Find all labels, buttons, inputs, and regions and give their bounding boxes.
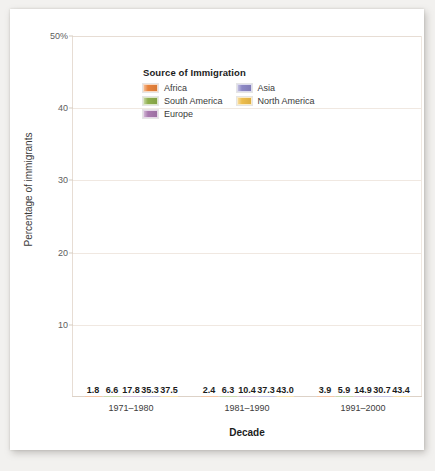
bar-value-label: 6.6: [106, 385, 119, 395]
x-axis-tick-label: 1971–1980: [108, 403, 153, 413]
y-axis-tick-label: 30: [58, 175, 68, 185]
bar-wrapper: 14.9: [355, 396, 372, 397]
bar-north-america[interactable]: 43.0: [277, 396, 294, 397]
legend-item-label: South America: [164, 96, 223, 106]
bar-value-label: 3.9: [319, 385, 332, 395]
legend-item-africa[interactable]: Africa: [143, 83, 223, 93]
bar-value-label: 37.5: [160, 385, 178, 395]
bar-wrapper: 37.5: [161, 396, 178, 397]
legend-item-europe[interactable]: Europe: [143, 109, 223, 119]
legend-item-label: Asia: [258, 83, 276, 93]
bar-asia[interactable]: 35.3: [142, 396, 159, 397]
legend-columns: AfricaSouth AmericaEurope AsiaNorth Amer…: [143, 83, 315, 119]
bar-africa[interactable]: 1.8: [85, 396, 102, 397]
bar-wrapper: 43.0: [277, 396, 294, 397]
bar-south-america[interactable]: 6.3: [220, 396, 237, 397]
y-axis-title-text: Percentage of immigrants: [24, 133, 35, 247]
bar-wrapper: 5.9: [336, 396, 353, 397]
legend-swatch-icon: [237, 84, 252, 92]
bar-europe[interactable]: 14.9: [355, 396, 372, 397]
bar-wrapper: 17.8: [123, 396, 140, 397]
bar-wrapper: 35.3: [142, 396, 159, 397]
bar-value-label: 2.4: [203, 385, 216, 395]
bar-value-label: 30.7: [373, 385, 391, 395]
bar-south-america[interactable]: 6.6: [104, 396, 121, 397]
bar-value-label: 43.4: [392, 385, 410, 395]
legend-swatch-icon: [237, 97, 252, 105]
x-axis-tick-label: 1981–1990: [224, 403, 269, 413]
bar-north-america[interactable]: 37.5: [161, 396, 178, 397]
legend-title: Source of Immigration: [143, 67, 315, 78]
bar-north-america[interactable]: 43.4: [393, 396, 410, 397]
legend-column-left: AfricaSouth AmericaEurope: [143, 83, 223, 119]
bar-value-label: 37.3: [257, 385, 275, 395]
bar-europe[interactable]: 17.8: [123, 396, 140, 397]
plot-area: 1020304050% 1.86.617.835.337.51971–19802…: [72, 36, 422, 397]
x-axis-title: Decade: [72, 427, 422, 438]
bar-wrapper: 3.9: [317, 396, 334, 397]
y-axis-tick-label: 50%: [50, 31, 68, 41]
legend-swatch-icon: [143, 84, 158, 92]
legend-item-north-america[interactable]: North America: [237, 96, 315, 106]
bar-wrapper: 37.3: [258, 396, 275, 397]
y-axis-tick-label: 10: [58, 320, 68, 330]
legend-swatch-icon: [143, 110, 158, 118]
bar-asia[interactable]: 37.3: [258, 396, 275, 397]
bar-value-label: 17.8: [122, 385, 140, 395]
bar-africa[interactable]: 2.4: [201, 396, 218, 397]
figure-card: Percentage of immigrants 1020304050% 1.8…: [10, 9, 424, 450]
bar-value-label: 14.9: [354, 385, 372, 395]
bar-wrapper: 10.4: [239, 396, 256, 397]
y-axis-tick-label: 40: [58, 103, 68, 113]
legend-item-asia[interactable]: Asia: [237, 83, 315, 93]
legend-item-south-america[interactable]: South America: [143, 96, 223, 106]
bar-value-label: 6.3: [222, 385, 235, 395]
legend-column-right: AsiaNorth America: [237, 83, 315, 119]
bar-africa[interactable]: 3.9: [317, 396, 334, 397]
legend-item-label: Africa: [164, 83, 187, 93]
bar-value-label: 1.8: [87, 385, 100, 395]
bar-wrapper: 2.4: [201, 396, 218, 397]
page-background: Percentage of immigrants 1020304050% 1.8…: [0, 0, 435, 471]
bar-wrapper: 43.4: [393, 396, 410, 397]
y-axis-tick-label: 20: [58, 248, 68, 258]
bar-wrapper: 6.3: [220, 396, 237, 397]
x-axis-tick-label: 1991–2000: [340, 403, 385, 413]
bar-south-america[interactable]: 5.9: [336, 396, 353, 397]
bar-wrapper: 6.6: [104, 396, 121, 397]
legend-swatch-icon: [143, 97, 158, 105]
legend-item-label: Europe: [164, 109, 193, 119]
bar-value-label: 43.0: [276, 385, 294, 395]
bar-group: 3.95.914.930.743.41991–2000: [305, 36, 421, 397]
bar-asia[interactable]: 30.7: [374, 396, 391, 397]
bar-wrapper: 30.7: [374, 396, 391, 397]
bar-wrapper: 1.8: [85, 396, 102, 397]
bar-value-label: 10.4: [238, 385, 256, 395]
bar-europe[interactable]: 10.4: [239, 396, 256, 397]
bar-value-label: 35.3: [141, 385, 159, 395]
legend-item-label: North America: [258, 96, 315, 106]
legend: Source of Immigration AfricaSouth Americ…: [143, 67, 315, 119]
bar-value-label: 5.9: [338, 385, 351, 395]
y-axis-title: Percentage of immigrants: [22, 9, 36, 370]
